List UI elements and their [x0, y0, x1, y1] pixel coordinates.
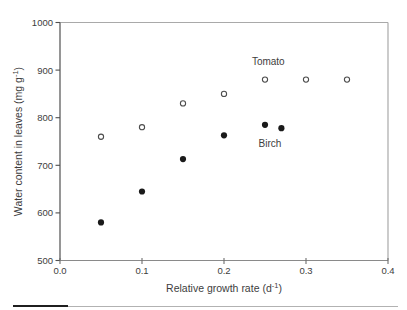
tomato-data-point [98, 134, 103, 139]
y-axis-title: Water content in leaves (mg g-1) [11, 67, 24, 216]
y-tick-label: 600 [37, 207, 53, 218]
x-tick-label: 0.2 [217, 265, 230, 276]
x-axis-title: Relative growth rate (d-1) [166, 281, 282, 294]
tomato-data-point [221, 91, 226, 96]
y-tick-label: 1000 [32, 17, 53, 28]
tomato-data-point [303, 77, 308, 82]
birch-data-point [98, 219, 104, 225]
birch-data-point [278, 125, 284, 131]
birch-data-point [139, 188, 145, 194]
tomato-data-point [344, 77, 349, 82]
chart-svg: 50060070080090010000.00.10.20.30.4Relati… [0, 0, 407, 310]
tomato-data-point [180, 101, 185, 106]
y-tick-label: 800 [37, 112, 53, 123]
x-tick-label: 0.4 [381, 265, 394, 276]
tomato-data-point [262, 77, 267, 82]
birch-data-point [221, 132, 227, 138]
y-tick-label: 900 [37, 65, 53, 76]
birch-data-point [180, 156, 186, 162]
birch-data-point [262, 122, 268, 128]
scatter-plot-figure: 50060070080090010000.00.10.20.30.4Relati… [0, 0, 407, 310]
y-tick-label: 700 [37, 160, 53, 171]
series-label-tomato: Tomato [252, 56, 285, 67]
tomato-data-point [139, 125, 144, 130]
x-tick-label: 0.3 [299, 265, 312, 276]
series-label-birch: Birch [259, 138, 282, 149]
x-tick-label: 0.0 [53, 265, 66, 276]
y-tick-label: 500 [37, 255, 53, 266]
x-tick-label: 0.1 [135, 265, 148, 276]
